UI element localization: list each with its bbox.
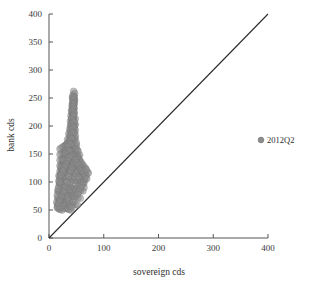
- diagonal-reference-line: [49, 14, 268, 238]
- y-tick-label: 350: [29, 37, 43, 47]
- scatter-point: [56, 179, 63, 186]
- scatter-point: [58, 172, 65, 179]
- scatter-point: [83, 166, 90, 173]
- scatter-plot-canvas: 0100200300400050100150200250300350400 so…: [0, 0, 310, 285]
- x-tick-label: 300: [207, 243, 221, 253]
- scatter-points-2012Q2: [53, 88, 92, 214]
- y-tick-label: 400: [29, 9, 43, 19]
- x-tick-label: 100: [97, 243, 111, 253]
- y-tick-label: 150: [29, 149, 43, 159]
- x-tick-label: 200: [152, 243, 166, 253]
- x-tick-label: 0: [47, 243, 52, 253]
- y-tick-label: 300: [29, 65, 43, 75]
- y-tick-label: 100: [29, 177, 43, 187]
- y-tick-label: 50: [33, 205, 43, 215]
- legend-entry-label: 2012Q2: [267, 135, 294, 145]
- axis-titles: sovereign cds bank cds: [6, 118, 185, 277]
- chart-legend: 2012Q2: [258, 135, 294, 145]
- y-tick-label: 200: [29, 121, 43, 131]
- reference-line: [49, 14, 268, 238]
- x-axis-title: sovereign cds: [133, 267, 185, 277]
- y-tick-label: 250: [29, 93, 43, 103]
- legend-marker-icon: [258, 137, 264, 143]
- plot-axes: 0100200300400050100150200250300350400: [29, 9, 276, 253]
- chart-figure: 0100200300400050100150200250300350400 so…: [0, 0, 310, 285]
- y-tick-label: 0: [38, 233, 43, 243]
- y-axis-title: bank cds: [6, 118, 16, 152]
- x-tick-label: 400: [261, 243, 275, 253]
